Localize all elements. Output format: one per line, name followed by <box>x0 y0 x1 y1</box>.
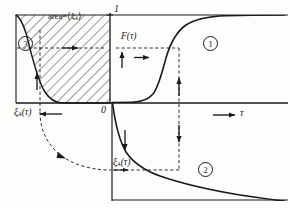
xi-left-label: ξA(τ) <box>14 108 31 118</box>
callout-1: 1 <box>203 36 218 51</box>
xi-left-argument: (τ) <box>22 107 32 117</box>
xi-bottom-label: ξA(τ) <box>113 158 130 168</box>
dashed-transfer-arc <box>40 112 111 170</box>
curve-1-sigmoid <box>112 15 288 103</box>
area-label-text: area=⟨ξ <box>48 11 75 21</box>
F-of-tau-label: F(τ) <box>121 32 137 42</box>
curve-2-decay <box>113 103 289 202</box>
area-label: area=⟨ξA⟩ <box>48 12 82 22</box>
callout-3: 3 <box>18 36 33 51</box>
xi-bottom-argument: (τ) <box>121 157 131 167</box>
axis-label-top-one: 1 <box>114 4 119 14</box>
axis-label-tau: τ <box>240 108 244 118</box>
callout-2: 2 <box>198 162 213 177</box>
figure-canvas: 1 0 τ area=⟨ξA⟩ F(τ) ξA(τ) ξA(τ) 3 1 2 <box>0 0 290 208</box>
hatched-area-fill <box>16 15 110 103</box>
panel-upper-left <box>16 15 110 103</box>
area-label-close: ⟩ <box>78 11 82 21</box>
transfer-arc-arrowhead <box>57 152 67 159</box>
axis-label-origin-zero: 0 <box>101 105 106 115</box>
diagram-svg <box>0 0 290 208</box>
